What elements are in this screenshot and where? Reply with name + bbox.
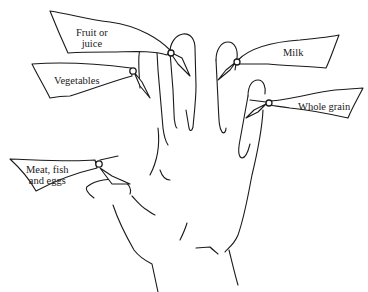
label-meat-fish-eggs: Meat, fish and eggs [26, 164, 69, 186]
label-whole-grain: Whole grain [298, 101, 350, 112]
label-fruit-or-juice: Fruit or juice [76, 27, 108, 49]
label-vegetables: Vegetables [54, 75, 99, 86]
hand-illustration [0, 0, 368, 292]
ribbon-milk [218, 35, 339, 80]
hand-diagram: Fruit or juice Vegetables Milk Whole gra… [0, 0, 368, 292]
label-milk: Milk [283, 47, 303, 58]
